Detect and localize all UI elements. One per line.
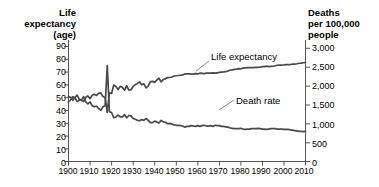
- left-axis-tick-marks: [64, 47, 69, 162]
- right-axis-tick-marks: [306, 48, 311, 161]
- annotation-life-expectancy: Life expectancy: [211, 52, 277, 62]
- caption-fragment: [62, 176, 317, 184]
- annotation-leader-lines: [196, 61, 234, 110]
- x-axis-tick-marks: [69, 162, 306, 166]
- death-rate-leader-line: [219, 100, 234, 110]
- plot-area: [0, 0, 379, 187]
- life-expectancy-leader-line: [196, 61, 209, 71]
- annotation-death-rate: Death rate: [236, 96, 280, 106]
- chart-figure: Life expectancy (age) Deaths per 100,000…: [0, 0, 379, 187]
